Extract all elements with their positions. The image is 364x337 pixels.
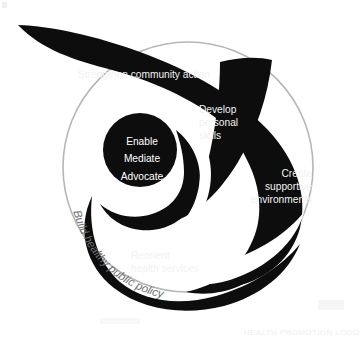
- scan-speck: [318, 300, 344, 310]
- label-create-supportive-environments-line2: supportive: [265, 181, 312, 192]
- label-develop-personal-skills-line3: skills: [199, 130, 221, 141]
- ottawa-charter-svg: Strengthen community action Develop pers…: [0, 0, 364, 337]
- label-strengthen-community-action: Strengthen community action: [78, 69, 210, 80]
- label-advocate: Advocate: [121, 171, 164, 182]
- bottom-caption: HEALTH PROMOTION LOGO: [244, 328, 360, 337]
- caption-label: HEALTH PROMOTION LOGO: [244, 328, 360, 337]
- label-reorient-health-services-line1: Reorient: [131, 250, 170, 261]
- scan-speck: [2, 2, 7, 8]
- label-create-supportive-environments-line1: Create: [281, 168, 312, 179]
- label-create-supportive-environments-line3: environments: [251, 194, 312, 205]
- scan-speck: [100, 318, 140, 324]
- label-develop-personal-skills-line1: Develop: [199, 104, 237, 115]
- label-reorient-health-services-line2: health services: [131, 263, 199, 274]
- ottawa-charter-diagram: Strengthen community action Develop pers…: [0, 0, 364, 337]
- label-mediate: Mediate: [124, 153, 161, 164]
- label-develop-personal-skills-line2: personal: [199, 117, 238, 128]
- label-enable: Enable: [126, 136, 158, 147]
